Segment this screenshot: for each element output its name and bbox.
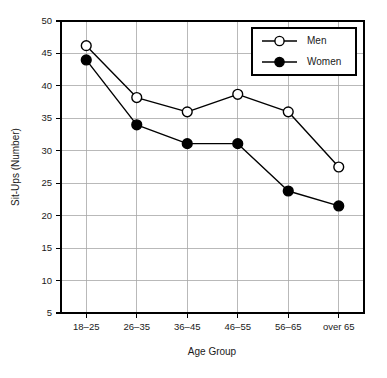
x-tick-label: 46–55 <box>225 321 251 332</box>
y-axis-title: Sit-Ups (Number) <box>10 128 21 206</box>
data-point-men-5 <box>334 162 344 172</box>
y-tick-label: 40 <box>41 80 52 91</box>
x-tick-label: 18–25 <box>73 321 99 332</box>
gridlines-horizontal <box>61 53 364 280</box>
x-axis-tick-labels: 18–2526–3536–4546–5556–65over 65 <box>73 321 355 332</box>
x-axis-ticks <box>86 313 339 318</box>
data-point-men-1 <box>132 93 142 103</box>
x-axis-title: Age Group <box>188 346 237 357</box>
y-tick-label: 25 <box>41 177 52 188</box>
y-tick-label: 35 <box>41 112 52 123</box>
x-tick-label: 36–45 <box>174 321 200 332</box>
legend-label-men: Men <box>307 35 326 46</box>
y-tick-label: 50 <box>41 15 52 26</box>
legend-marker-women <box>275 57 284 66</box>
data-point-men-2 <box>182 107 192 117</box>
data-point-women-2 <box>182 139 192 149</box>
data-point-men-4 <box>283 107 293 117</box>
data-point-men-0 <box>81 41 91 51</box>
y-axis-tick-labels: 5101520253035404550 <box>41 15 52 318</box>
sit-ups-line-chart: 5101520253035404550 18–2526–3536–4546–55… <box>0 0 387 378</box>
legend: Men Women <box>252 28 356 75</box>
x-tick-label: 26–35 <box>124 321 150 332</box>
legend-label-women: Women <box>307 56 341 67</box>
y-tick-label: 20 <box>41 210 52 221</box>
data-point-women-0 <box>81 55 91 65</box>
data-point-men-3 <box>233 89 243 99</box>
y-tick-label: 30 <box>41 145 52 156</box>
data-point-women-1 <box>132 120 142 130</box>
data-point-women-5 <box>334 201 344 211</box>
legend-marker-men <box>275 36 284 45</box>
y-tick-label: 45 <box>41 47 52 58</box>
series-line-women <box>86 60 339 206</box>
y-tick-label: 15 <box>41 242 52 253</box>
y-axis-ticks <box>56 21 61 313</box>
x-tick-label: over 65 <box>323 321 355 332</box>
x-tick-label: 56–65 <box>275 321 301 332</box>
y-tick-label: 5 <box>47 307 52 318</box>
data-point-women-4 <box>283 186 293 196</box>
data-point-women-3 <box>233 139 243 149</box>
chart-canvas: 5101520253035404550 18–2526–3536–4546–55… <box>0 0 387 378</box>
legend-box <box>252 28 356 75</box>
y-tick-label: 10 <box>41 275 52 286</box>
